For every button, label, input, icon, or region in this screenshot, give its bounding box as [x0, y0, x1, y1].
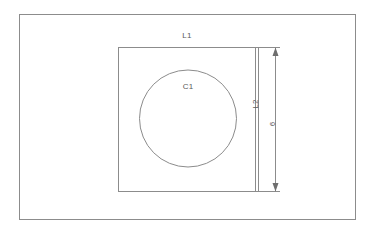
label-square-side: L2 [251, 99, 260, 109]
label-square-top: L1 [182, 31, 192, 40]
arrow-up-icon [273, 48, 279, 57]
label-dimension-value: 6 [268, 121, 277, 126]
technical-drawing-canvas: L1 C1 L2 6 [0, 0, 375, 234]
arrow-down-icon [273, 183, 279, 192]
drawing-svg: L1 C1 L2 6 [0, 0, 375, 234]
outer-frame-rect [20, 15, 356, 220]
label-circle: C1 [183, 82, 194, 91]
